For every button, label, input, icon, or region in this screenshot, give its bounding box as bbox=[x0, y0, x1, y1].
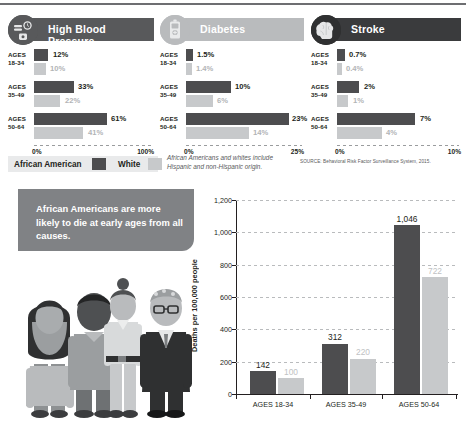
bar-value-african-american: 312 bbox=[318, 332, 352, 342]
bar-group-ages-18-34: AGES 18-34 0.7% 0.4% bbox=[311, 49, 461, 78]
bars: 61% 41% bbox=[34, 113, 154, 142]
bars: 10% 6% bbox=[186, 81, 304, 110]
bar-groups: AGES 18-34 0.7% 0.4% AGES 35-49 bbox=[311, 49, 461, 142]
figure-older-man-glasses bbox=[140, 289, 192, 418]
bar-african-american bbox=[394, 225, 420, 394]
age-label-line1: AGES bbox=[160, 51, 178, 58]
bar-group-ages-35-49: AGES 35-49 33% 22% bbox=[8, 81, 154, 110]
legend-label-african-american: African American bbox=[14, 160, 82, 169]
panel-header: Diabetes bbox=[160, 14, 304, 44]
panel-title: Diabetes bbox=[200, 23, 245, 35]
bar-white bbox=[186, 127, 249, 139]
age-group-label: AGES 18-34 bbox=[8, 51, 34, 66]
legend-label-white: White bbox=[118, 160, 140, 169]
panel-header: High Blood Pressure bbox=[8, 14, 154, 44]
bars: 1.5% 1.4% bbox=[186, 49, 304, 78]
bar-white bbox=[278, 378, 304, 394]
bar-value-white: 6% bbox=[217, 96, 228, 105]
bar-african-american bbox=[337, 81, 359, 93]
axis-min-label: 0% bbox=[32, 148, 42, 155]
bar-value-white: 100 bbox=[274, 367, 308, 377]
bar-group-ages-18-34: AGES 18-34 12% 10% bbox=[8, 49, 154, 78]
age-label-line2: 50-64 bbox=[8, 123, 24, 130]
bar-value-white: 10% bbox=[50, 64, 65, 73]
bar-group-ages-18-34: AGES 18-34 1.5% 1.4% bbox=[160, 49, 304, 78]
bar-value-white: 22% bbox=[65, 96, 80, 105]
bar-african-american bbox=[337, 113, 415, 125]
age-label-line2: 18-34 bbox=[160, 59, 176, 66]
bar-value-african-american: 12% bbox=[53, 50, 68, 59]
bar-white bbox=[337, 63, 342, 75]
bars: 12% 10% bbox=[34, 49, 154, 78]
legend-swatch-white bbox=[148, 158, 162, 170]
axis-line bbox=[337, 145, 459, 146]
bar-african-american bbox=[186, 113, 289, 125]
figure-woman-long-hair bbox=[26, 301, 74, 419]
age-group-label: AGES 18-34 bbox=[311, 51, 337, 66]
age-label-line1: AGES bbox=[311, 51, 329, 58]
bar-white bbox=[34, 127, 83, 139]
bar-african-american bbox=[337, 49, 345, 61]
age-label-line1: AGES bbox=[311, 83, 329, 90]
bar-group-ages-35-49: AGES 35-49 2% 1% bbox=[311, 81, 461, 110]
bar-value-white: 1.4% bbox=[196, 64, 213, 73]
x-tick-mark bbox=[310, 394, 311, 399]
y-tick-label: 1,000 bbox=[196, 228, 232, 237]
y-tick-label: 800 bbox=[196, 261, 232, 270]
age-label-line2: 35-49 bbox=[311, 91, 327, 98]
age-label-line1: AGES bbox=[8, 115, 26, 122]
x-tick-label: AGES 35-49 bbox=[309, 400, 383, 409]
brain-head-icon bbox=[311, 15, 341, 45]
panel-high-blood-pressure: High Blood Pressure AGES 18-34 12% 10% bbox=[8, 14, 154, 158]
bar-value-white: 0.4% bbox=[346, 64, 363, 73]
age-label-line2: 35-49 bbox=[160, 91, 176, 98]
bar-african-american bbox=[322, 344, 348, 394]
bar-african-american bbox=[34, 113, 107, 125]
bar-white bbox=[337, 95, 348, 107]
blood-pressure-cuff-icon bbox=[8, 15, 38, 45]
y-tick-label: 0 bbox=[196, 390, 232, 399]
legend-swatch-african-american bbox=[92, 158, 106, 170]
bar-value-african-american: 7% bbox=[420, 114, 431, 123]
axis-min-label: 0% bbox=[335, 148, 345, 155]
axis-line bbox=[34, 145, 152, 146]
bar-value-african-american: 10% bbox=[235, 82, 250, 91]
bars: 7% 4% bbox=[337, 113, 461, 142]
glucose-meter-icon bbox=[160, 15, 190, 45]
x-tick-mark bbox=[382, 394, 383, 399]
x-tick-mark bbox=[236, 394, 237, 399]
axis-line bbox=[186, 145, 302, 146]
y-axis-ticks: 1,200 1,000 800 600 400 200 0 bbox=[192, 200, 232, 394]
y-tick-label: 400 bbox=[196, 325, 232, 334]
bar-white bbox=[422, 277, 448, 394]
source-note: SOURCE: Behavioral Risk Factor Surveilla… bbox=[300, 159, 466, 164]
bars: 23% 14% bbox=[186, 113, 304, 142]
bar-value-african-american: 2% bbox=[364, 82, 375, 91]
bars: 33% 22% bbox=[34, 81, 154, 110]
age-group-label: AGES 50-64 bbox=[311, 115, 337, 130]
bar-white bbox=[186, 95, 213, 107]
bar-group-ages-35-49: 312 220 bbox=[318, 200, 382, 394]
bar-white bbox=[186, 63, 192, 75]
legend: African American White bbox=[8, 156, 158, 172]
callout-text: African Americans are more likely to die… bbox=[36, 202, 184, 243]
age-label-line2: 50-64 bbox=[311, 123, 327, 130]
deaths-bar-chart: Deaths per 100,000 people 1,200 1,000 80… bbox=[192, 192, 462, 424]
age-group-label: AGES 50-64 bbox=[160, 115, 186, 130]
x-tick-label: AGES 50-64 bbox=[382, 400, 456, 409]
condition-panels: High Blood Pressure AGES 18-34 12% 10% bbox=[0, 14, 466, 164]
bar-white bbox=[34, 63, 46, 75]
bar-white bbox=[34, 95, 60, 107]
bar-value-white: 722 bbox=[418, 266, 452, 276]
age-label-line2: 35-49 bbox=[8, 91, 24, 98]
age-group-label: AGES 35-49 bbox=[311, 83, 337, 98]
age-group-label: AGES 35-49 bbox=[8, 83, 34, 98]
bar-value-white: 220 bbox=[346, 347, 380, 357]
bar-group-ages-50-64: AGES 50-64 7% 4% bbox=[311, 113, 461, 142]
people-illustration bbox=[4, 256, 200, 432]
bar-white bbox=[337, 127, 382, 139]
x-axis-line bbox=[236, 394, 458, 395]
bar-group-ages-50-64: 1,046 722 bbox=[390, 200, 454, 394]
callout-box: African Americans are more likely to die… bbox=[18, 189, 194, 251]
age-label-line2: 50-64 bbox=[160, 123, 176, 130]
